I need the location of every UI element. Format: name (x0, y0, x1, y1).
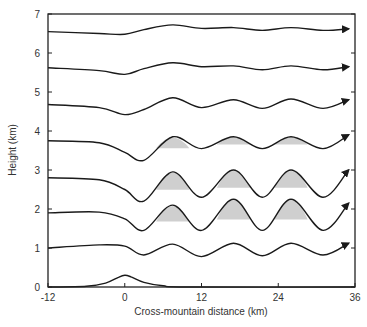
x-tick-label: -12 (41, 292, 56, 303)
streamline-6 (48, 63, 349, 75)
x-tick-label: 12 (196, 292, 208, 303)
y-axis-ticks: 01234567 (34, 9, 355, 293)
plot-frame (48, 14, 355, 287)
x-tick-label: 0 (122, 292, 128, 303)
y-tick-label: 0 (34, 282, 40, 293)
y-tick-label: 5 (34, 87, 40, 98)
streamline-1 (48, 243, 349, 256)
y-tick-label: 7 (34, 9, 40, 20)
streamline-4 (48, 135, 349, 161)
x-tick-label: 24 (273, 292, 285, 303)
y-tick-label: 2 (34, 204, 40, 215)
streamline-chart: 01234567 -120122436 Cross-mountain dista… (0, 0, 367, 327)
y-tick-label: 6 (34, 48, 40, 59)
y-tick-label: 4 (34, 126, 40, 137)
streamline-5 (48, 98, 349, 115)
y-tick-label: 1 (34, 243, 40, 254)
y-tick-label: 3 (34, 165, 40, 176)
y-axis-title: Height (km) (7, 124, 18, 176)
streamlines (48, 25, 349, 257)
streamline-7 (48, 25, 349, 35)
x-tick-label: 36 (349, 292, 361, 303)
x-axis-title: Cross-mountain distance (km) (134, 306, 267, 317)
crest-shade (156, 137, 189, 148)
